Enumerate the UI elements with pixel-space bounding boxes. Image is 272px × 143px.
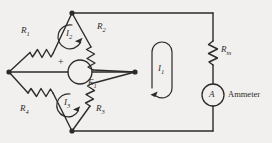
branch-e1 [9, 60, 135, 84]
label-r4: R4 [20, 104, 29, 115]
label-i2: I2 [66, 29, 72, 40]
label-rm: Rm [221, 45, 231, 56]
circuit-diagram: R1 R2 R3 R4 Rm E1 + A Ammeter I1 I2 I3 [0, 0, 272, 143]
schematic-canvas [0, 0, 272, 143]
label-r2: R2 [97, 22, 106, 33]
label-e1: E1 [88, 78, 97, 89]
label-i3: I3 [64, 98, 70, 109]
ammeter-caption: Ammeter [228, 90, 260, 99]
source-polarity-plus: + [58, 57, 64, 67]
label-r1: R1 [21, 26, 30, 37]
label-r3: R3 [96, 104, 105, 115]
label-i1: I1 [158, 64, 164, 75]
ammeter-symbol: A [209, 90, 215, 99]
branch-r4 [9, 72, 72, 131]
branch-r3 [72, 72, 135, 131]
